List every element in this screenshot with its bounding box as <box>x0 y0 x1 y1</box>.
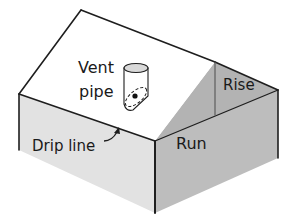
run-label: Run <box>176 136 207 152</box>
rise-label: Rise <box>223 78 255 93</box>
vent-label-line2: pipe <box>79 84 114 100</box>
house-roof-diagram: Vent pipe Rise Run Drip line <box>0 0 292 220</box>
diagram-canvas <box>0 0 292 220</box>
drip-line-label: Drip line <box>32 139 95 154</box>
vent-label-line1: Vent <box>78 60 114 76</box>
